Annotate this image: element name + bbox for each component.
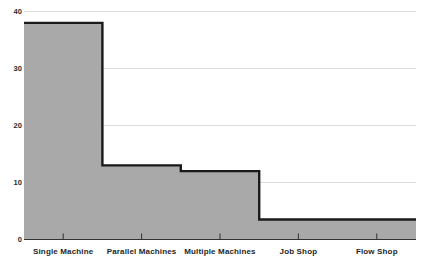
x-axis-tick-label-parallel-machines: Parallel Machines (107, 247, 177, 256)
x-axis-tick-label-multiple-machines: Multiple Machines (184, 247, 255, 256)
x-axis-tick-labels: Single Machine Parallel Machines Multipl… (0, 0, 425, 269)
x-axis-tick-label-single-machine: Single Machine (33, 247, 93, 256)
x-axis-tick-label-job-shop: Job Shop (280, 247, 318, 256)
x-axis-tick-label-flow-shop: Flow Shop (356, 247, 398, 256)
chart-container: 40 30 20 10 0 Single Machine Parallel Ma… (0, 0, 425, 269)
